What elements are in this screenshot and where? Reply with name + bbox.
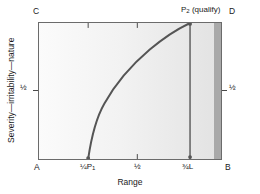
- corner-label-a: A: [34, 163, 40, 172]
- y-axis-tick-right: [222, 90, 227, 91]
- corner-label-b: B: [225, 163, 231, 172]
- chart-figure: C D A B P2 (qualify) ¼P1 ½ ¾L ½ ½ Range …: [0, 0, 260, 194]
- y-axis-tick-left: [33, 90, 38, 91]
- corner-label-c: C: [33, 7, 39, 16]
- x-tick-label-half: ½: [134, 163, 141, 171]
- y-tick-label-half-left: ½: [20, 84, 27, 92]
- plot-area: [38, 22, 222, 160]
- severity-curve: [88, 23, 190, 159]
- y-axis-title: Severity—irritability—nature: [7, 20, 16, 160]
- x-tick-label-three-quarter-l: ¾L: [182, 163, 193, 171]
- annotation-p2-suffix: (qualify): [190, 5, 221, 14]
- plot-graphics: [39, 23, 221, 159]
- x-tick-0-subscript: 1: [92, 165, 95, 171]
- curve-end-dot: [188, 23, 192, 26]
- annotation-p2-qualify: P2 (qualify): [181, 6, 220, 14]
- y-tick-label-half-right: ½: [229, 84, 236, 92]
- x-tick-0-base: ¼P: [80, 162, 92, 171]
- x-tick-label-quarter-p1: ¼P1: [80, 163, 95, 171]
- corner-label-d: D: [229, 7, 235, 16]
- vline-base-dot: [188, 155, 192, 159]
- x-axis-title: Range: [0, 178, 260, 187]
